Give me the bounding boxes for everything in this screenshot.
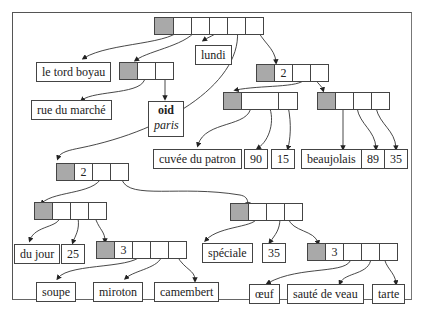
- pointer-cell: [137, 62, 156, 80]
- node-header-cell: [317, 92, 336, 110]
- node-count-cell: 2: [74, 163, 93, 181]
- pointer-cell: [266, 203, 285, 221]
- leaf-du-jour: du jour: [14, 244, 60, 264]
- node-header-cell: [307, 243, 326, 261]
- node-header-cell: [256, 64, 275, 82]
- node-header-cell: [154, 17, 174, 35]
- leaf-lundi: lundi: [195, 45, 232, 65]
- pointer-cell: [110, 163, 129, 181]
- pointer-cell: [241, 92, 279, 110]
- node-header-cell: [223, 92, 242, 110]
- paris-label: paris: [154, 118, 178, 133]
- pointer-cell: [227, 17, 246, 35]
- pointer-cell: [353, 92, 372, 110]
- node-count-cell: 3: [114, 241, 133, 259]
- leaf-soupe: soupe: [36, 282, 76, 302]
- pointer-cell: [361, 243, 380, 261]
- leaf-le-tord-boyau: le tord boyau: [36, 62, 111, 82]
- node-header-cell: [119, 62, 138, 80]
- pointer-cell: [52, 202, 71, 220]
- tree-node-mid-a: [34, 202, 107, 220]
- oid-label: oid: [154, 103, 178, 118]
- pointer-cell: [278, 92, 298, 110]
- pointer-cell: [284, 203, 303, 221]
- leaf-beaujolais: beaujolais: [301, 149, 362, 169]
- leaf-cuvee-du-patron: cuvée du patron: [153, 149, 242, 169]
- tree-node-mid-b: [230, 203, 303, 221]
- leaf-90: 90: [244, 149, 268, 169]
- node-header-cell: [96, 241, 115, 259]
- pointer-cell: [173, 17, 192, 35]
- pointer-cell: [379, 243, 398, 261]
- leaf-miroton: miroton: [93, 282, 143, 302]
- leaf-rue-du-marche: rue du marché: [31, 100, 112, 120]
- pointer-cell: [248, 203, 267, 221]
- tree-node-right-b: [317, 92, 390, 110]
- pointer-cell: [310, 64, 329, 82]
- node-count-cell: 3: [325, 243, 344, 261]
- node-header-cell: [34, 202, 53, 220]
- pointer-cell: [132, 241, 151, 259]
- pointer-cell: [70, 202, 89, 220]
- leaf-speciale: spéciale: [202, 243, 253, 263]
- pointer-cell: [343, 243, 362, 261]
- tree-node-right: 2: [256, 64, 329, 82]
- tree-node-root: [154, 17, 264, 35]
- pointer-cell: [292, 64, 311, 82]
- pointer-cell: [335, 92, 354, 110]
- tree-node-right-a: [223, 92, 298, 110]
- leaf-saute-de-veau: sauté de veau: [287, 284, 364, 304]
- node-header-cell: [230, 203, 249, 221]
- tree-node-mid: 2: [56, 163, 129, 181]
- leaf-89: 89: [361, 149, 385, 169]
- pointer-cell: [92, 163, 111, 181]
- leaf-camembert: camembert: [154, 282, 219, 302]
- node-count-cell: 2: [274, 64, 293, 82]
- pointer-cell: [88, 202, 107, 220]
- leaf-35-b: 35: [262, 243, 286, 263]
- pointer-cell: [209, 17, 228, 35]
- pointer-cell: [150, 241, 169, 259]
- pointer-cell: [371, 92, 390, 110]
- pointer-cell: [191, 17, 210, 35]
- leaf-35: 35: [384, 149, 408, 169]
- leaf-15: 15: [271, 149, 295, 169]
- node-header-cell: [56, 163, 75, 181]
- tree-node-mid-b3: 3: [307, 243, 398, 261]
- leaf-oid-paris: oid paris: [148, 101, 184, 137]
- pointer-cell: [168, 241, 187, 259]
- pointer-cell: [155, 62, 174, 80]
- leaf-25: 25: [61, 244, 85, 264]
- leaf-tarte: tarte: [372, 284, 405, 304]
- pointer-cell: [245, 17, 264, 35]
- tree-node-left: [119, 62, 174, 80]
- tree-node-mid-a3: 3: [96, 241, 187, 259]
- leaf-oeuf: œuf: [249, 284, 280, 304]
